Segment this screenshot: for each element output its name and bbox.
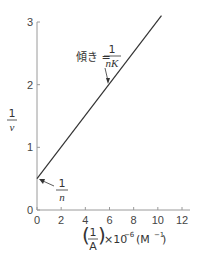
y-tick-label: 2 bbox=[27, 79, 33, 91]
svg-text:1: 1 bbox=[109, 43, 116, 56]
svg-text:−6: −6 bbox=[124, 231, 135, 239]
x-tick-label: 12 bbox=[176, 214, 188, 226]
svg-text:1: 1 bbox=[59, 177, 66, 190]
svg-text:): ) bbox=[162, 233, 166, 246]
svg-text:n: n bbox=[59, 191, 65, 203]
data-line bbox=[37, 16, 161, 179]
svg-text:nK: nK bbox=[106, 57, 120, 69]
y-axis-label: 1 v bbox=[7, 107, 17, 133]
x-tick-label: 8 bbox=[131, 214, 137, 226]
svg-text:A: A bbox=[89, 240, 97, 253]
svg-text:(M: (M bbox=[136, 233, 150, 246]
x-tick-label: 6 bbox=[106, 214, 112, 226]
x-tick-label: 0 bbox=[34, 214, 40, 226]
svg-text:1: 1 bbox=[9, 107, 16, 120]
y-tick-label: 0 bbox=[27, 204, 33, 216]
svg-text:1: 1 bbox=[90, 226, 97, 239]
y-tick-label: 1 bbox=[27, 141, 33, 153]
y-ticks: 0123 bbox=[27, 16, 40, 216]
x-axis-label: ( 1 A ) ×10 −6 (M −1 ) bbox=[82, 223, 166, 253]
intercept-arrow bbox=[43, 181, 54, 186]
y-tick-label: 3 bbox=[27, 16, 33, 28]
intercept-annotation: 1 n bbox=[39, 177, 68, 203]
x-tick-label: 10 bbox=[152, 214, 164, 226]
x-tick-label: 2 bbox=[58, 214, 64, 226]
svg-text:v: v bbox=[10, 121, 15, 133]
chart: 0123 024681012 1 v 傾き = 1 nK 1 n ( 1 A )… bbox=[0, 0, 205, 259]
